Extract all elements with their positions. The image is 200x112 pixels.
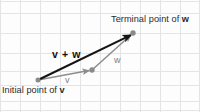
- vector-addition-figure: Terminal point of w Initial point of v v…: [0, 0, 200, 112]
- vector-w-arrow: [92, 35, 131, 70]
- initial-point-label-variable: v: [60, 85, 65, 95]
- terminal-point-label: Terminal point of w: [111, 15, 189, 24]
- initial-point-label: Initial point of v: [2, 86, 65, 95]
- intermediate-point-marker: [89, 67, 94, 72]
- vector-sum-label: v + w: [52, 49, 81, 60]
- terminal-point-label-prefix: Terminal point of: [111, 14, 182, 24]
- terminal-point-marker: [130, 30, 135, 35]
- vector-w-label: w: [114, 56, 121, 65]
- initial-point-label-prefix: Initial point of: [2, 85, 60, 95]
- initial-point-marker: [36, 78, 41, 83]
- vector-v-label: v: [65, 76, 70, 85]
- terminal-point-label-variable: w: [182, 14, 189, 24]
